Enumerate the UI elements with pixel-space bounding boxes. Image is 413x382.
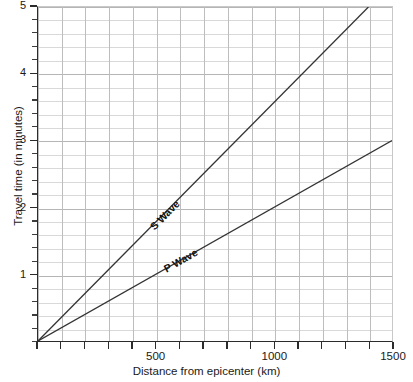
x-axis-tick	[155, 342, 156, 349]
y-axis-title: Travel time (in minutes)	[12, 76, 24, 256]
y-axis-major-tick	[30, 207, 37, 208]
x-axis-tick	[202, 342, 203, 349]
y-axis-minor-tick	[32, 288, 37, 289]
y-axis-major-tick	[30, 140, 37, 141]
x-axis-tick	[369, 342, 370, 349]
x-axis-tick	[321, 342, 322, 349]
y-axis-minor-tick	[32, 99, 37, 100]
x-axis-tick	[274, 342, 275, 349]
x-axis-tick	[297, 342, 298, 349]
series-line-p-wave	[38, 141, 392, 341]
y-axis-major-tick	[30, 5, 37, 6]
x-axis-tick-label: 500	[130, 350, 182, 362]
x-axis-tick	[250, 342, 251, 349]
series-lines	[38, 7, 392, 341]
y-axis-minor-tick	[32, 328, 37, 329]
y-axis-minor-tick	[32, 86, 37, 87]
y-axis-minor-tick	[32, 261, 37, 262]
y-axis-minor-tick	[32, 247, 37, 248]
travel-time-chart: 1234550010001500 Distance from epicenter…	[0, 0, 413, 382]
y-axis-minor-tick	[32, 180, 37, 181]
x-axis-tick	[226, 342, 227, 349]
x-axis-tick	[179, 342, 180, 349]
series-line-s-wave	[38, 7, 368, 341]
y-axis-minor-tick	[32, 314, 37, 315]
y-axis-minor-tick	[32, 113, 37, 114]
y-axis-tick-label: 5	[0, 0, 26, 11]
y-axis-minor-tick	[32, 167, 37, 168]
plot-area	[37, 6, 393, 342]
y-axis-minor-tick	[32, 193, 37, 194]
y-axis-minor-tick	[32, 32, 37, 33]
y-axis-major-tick	[30, 274, 37, 275]
x-axis-tick-label: 1500	[367, 350, 413, 362]
y-axis-tick-label: 1	[0, 269, 26, 280]
y-axis-minor-tick	[32, 59, 37, 60]
x-axis-tick	[131, 342, 132, 349]
x-axis-tick-label: 1000	[248, 350, 300, 362]
x-axis-tick	[36, 342, 37, 349]
y-axis-major-tick	[30, 73, 37, 74]
y-axis-minor-tick	[32, 220, 37, 221]
y-axis-minor-tick	[32, 126, 37, 127]
y-axis-minor-tick	[32, 234, 37, 235]
y-axis-minor-tick	[32, 19, 37, 20]
x-axis-tick	[108, 342, 109, 349]
x-axis-title: Distance from epicenter (km)	[0, 365, 413, 377]
x-axis-tick	[84, 342, 85, 349]
y-axis-minor-tick	[32, 153, 37, 154]
x-axis-tick	[345, 342, 346, 349]
x-axis-tick	[392, 342, 393, 349]
y-axis-minor-tick	[32, 46, 37, 47]
y-axis-minor-tick	[32, 301, 37, 302]
x-axis-tick	[60, 342, 61, 349]
